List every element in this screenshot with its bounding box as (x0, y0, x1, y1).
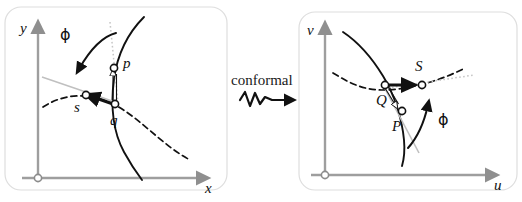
right-angle-label: ϕ (438, 110, 449, 129)
left-point-q-label: q (110, 112, 118, 128)
right-v-axis-label: ν (307, 22, 314, 38)
right-panel-frame (299, 12, 517, 190)
right-u-axis-label: u (494, 177, 502, 193)
right-point-Q-marker (381, 81, 388, 88)
left-point-s-label: s (74, 99, 80, 115)
right-origin-marker (321, 171, 328, 178)
left-angle-label: ϕ (60, 25, 71, 44)
left-panel: y x ϕ p q s (5, 7, 227, 196)
left-point-p-label: p (122, 55, 131, 71)
left-point-q-marker (111, 100, 118, 107)
left-y-axis-label: y (18, 20, 27, 36)
transform-label: conformal (231, 72, 293, 88)
left-point-p-marker (110, 64, 117, 71)
right-point-S-marker (418, 81, 425, 88)
right-point-S-label: S (415, 58, 423, 74)
right-panel: ν u ϕ Q S P (299, 12, 517, 193)
right-point-P-label: P (391, 118, 401, 134)
right-point-P-marker (398, 107, 405, 114)
left-point-s-marker (82, 91, 89, 98)
right-point-Q-label: Q (376, 92, 387, 108)
left-origin-marker (34, 174, 41, 181)
conformal-map-diagram: y x ϕ p q s conformal (0, 0, 522, 202)
left-x-axis-label: x (204, 180, 212, 196)
